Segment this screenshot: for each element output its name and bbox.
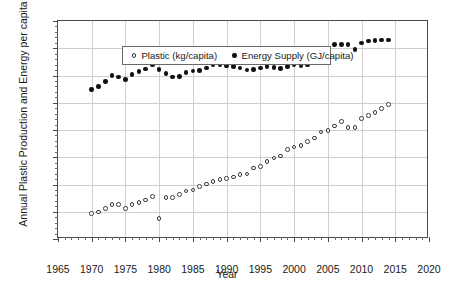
data-point (332, 124, 337, 129)
y-tick-minor (55, 179, 58, 180)
x-tick-minor (368, 237, 369, 240)
x-tick-minor (314, 237, 315, 240)
data-point (157, 67, 162, 72)
data-point (137, 69, 142, 74)
data-point (197, 68, 202, 73)
x-tick-minor (186, 237, 187, 240)
legend-label: Energy Supply (GJ/capita) (242, 50, 354, 61)
y-tick-major (53, 103, 58, 104)
data-point (204, 66, 209, 71)
y-tick-minor (55, 228, 58, 229)
y-tick-major (53, 48, 58, 49)
data-point (218, 177, 223, 182)
data-point (170, 195, 175, 200)
y-tick-minor (55, 163, 58, 164)
x-tick-major (92, 237, 93, 242)
data-point (123, 206, 128, 211)
data-point (272, 156, 277, 161)
data-point (373, 110, 378, 115)
y-tick-minor (55, 32, 58, 33)
data-point (177, 74, 182, 79)
legend-entry: Energy Supply (GJ/capita) (232, 50, 353, 61)
x-tick-minor (206, 237, 207, 240)
x-tick-minor (98, 237, 99, 240)
data-point (224, 176, 229, 181)
y-tick-minor (55, 195, 58, 196)
data-point (103, 206, 108, 211)
y-tick-minor (55, 114, 58, 115)
x-tick-minor (341, 237, 342, 240)
x-tick-minor (254, 237, 255, 240)
legend-label: Plastic (kg/capita) (141, 50, 217, 61)
y-tick-minor (55, 201, 58, 202)
y-tick-major (53, 157, 58, 158)
y-tick-minor (55, 26, 58, 27)
data-point (278, 66, 283, 71)
data-point (123, 77, 128, 82)
data-point (278, 154, 283, 159)
x-tick-minor (179, 237, 180, 240)
data-point (373, 38, 378, 43)
y-tick-minor (55, 125, 58, 126)
data-point (319, 130, 324, 135)
data-point (110, 73, 115, 78)
y-tick-minor (55, 43, 58, 44)
x-tick-minor (287, 237, 288, 240)
x-tick-minor (267, 237, 268, 240)
data-point (353, 125, 358, 130)
x-tick-minor (78, 237, 79, 240)
x-tick-minor (281, 237, 282, 240)
gridline-horizontal (58, 185, 427, 186)
data-point (204, 182, 209, 187)
data-point (339, 119, 344, 124)
data-point (143, 198, 148, 203)
y-tick-minor (55, 97, 58, 98)
data-point (272, 65, 277, 70)
data-point (164, 71, 169, 76)
data-point (346, 125, 351, 130)
data-point (191, 69, 196, 74)
y-tick-minor (55, 108, 58, 109)
data-point (359, 116, 364, 121)
data-point (211, 179, 216, 184)
data-point (245, 172, 250, 177)
x-tick-minor (335, 237, 336, 240)
y-tick-major (53, 130, 58, 131)
y-tick-major (53, 212, 58, 213)
data-point (164, 195, 169, 200)
x-tick-major (395, 237, 396, 242)
gridline-vertical (362, 21, 363, 237)
y-tick-minor (55, 70, 58, 71)
x-tick-minor (274, 237, 275, 240)
x-tick-minor (321, 237, 322, 240)
x-tick-minor (200, 237, 201, 240)
y-tick-minor (55, 92, 58, 93)
x-tick-minor (308, 237, 309, 240)
data-point (231, 175, 236, 180)
data-point (191, 188, 196, 193)
x-tick-minor (348, 237, 349, 240)
y-tick-minor (55, 54, 58, 55)
data-point (184, 70, 189, 75)
x-tick-minor (382, 237, 383, 240)
data-point (251, 166, 256, 171)
data-point (116, 75, 121, 80)
x-tick-minor (105, 237, 106, 240)
x-tick-minor (409, 237, 410, 240)
y-tick-minor (55, 174, 58, 175)
x-tick-minor (416, 237, 417, 240)
x-tick-major (328, 237, 329, 242)
data-point (130, 202, 135, 207)
data-point (386, 102, 391, 107)
data-point (258, 164, 263, 169)
y-tick-minor (55, 217, 58, 218)
y-tick-minor (55, 135, 58, 136)
x-tick-minor (119, 237, 120, 240)
x-tick-major (227, 237, 228, 242)
data-point (332, 42, 337, 47)
gridline-horizontal (58, 157, 427, 158)
x-tick-minor (166, 237, 167, 240)
x-tick-major (58, 237, 59, 242)
data-point (110, 202, 115, 207)
x-tick-minor (213, 237, 214, 240)
